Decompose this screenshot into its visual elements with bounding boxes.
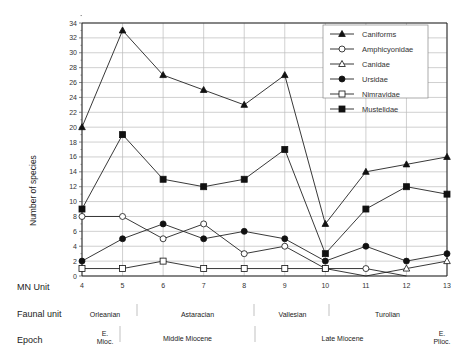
y-tick-label: 10 (69, 198, 77, 205)
x-tick-label: 7 (202, 282, 206, 289)
x-tick-label: 4 (80, 282, 84, 289)
legend-entry: Canidae (362, 60, 390, 69)
epoch-late-miocene: Late Miocene (255, 335, 430, 342)
y-tick-label: 20 (69, 124, 77, 131)
y-tick-label: 0 (73, 273, 77, 280)
x-tick-label: 11 (362, 282, 369, 289)
series-mustelidae (79, 132, 450, 257)
x-tick-label: 6 (161, 282, 165, 289)
legend-entry: Amphicyonidae (362, 45, 413, 54)
y-tick-label: 30 (69, 49, 77, 56)
mn-unit-label: MN Unit (17, 282, 50, 292)
faunal-orleanian: Orleanian (70, 311, 140, 318)
y-tick-label: 22 (69, 109, 77, 116)
x-tick-label: 12 (403, 282, 411, 289)
x-tick-label: 9 (283, 282, 287, 289)
epoch-early-miocene: E.Mioc. (95, 330, 115, 346)
legend-entry: Nimravidae (362, 90, 400, 99)
faunal-unit-label: Faunal unit (17, 309, 62, 319)
y-tick-label: 12 (69, 183, 77, 190)
y-tick-label: 26 (69, 79, 77, 86)
epoch-early-pliocene: E.Plioc. (433, 330, 451, 346)
legend-entry: Mustelidae (362, 105, 398, 114)
epoch-label: Epoch (17, 335, 43, 345)
legend: CaniformsAmphicyonidaeCanidaeUrsidaeNimr… (323, 25, 428, 114)
y-tick-label: 24 (69, 94, 77, 101)
faunal-vallesian: Vallesian (255, 311, 330, 318)
y-tick-label: 16 (69, 153, 77, 160)
y-tick-label: 32 (69, 34, 77, 41)
y-tick-label: 2 (73, 258, 77, 265)
faunal-turolian: Turolian (330, 311, 445, 318)
y-tick-label: 14 (69, 168, 77, 175)
series-ursidae (79, 221, 450, 264)
y-tick-label: 34 (69, 20, 77, 27)
legend-entry: Caniforms (362, 30, 396, 39)
line-chart: 0246810121416182022242628303234456789101… (0, 0, 451, 358)
faunal-astaracian: Astaracian (140, 311, 255, 318)
y-axis-label: Number of species (28, 155, 38, 226)
y-tick-label: 6 (73, 228, 77, 235)
y-tick-label: 18 (69, 139, 77, 146)
epoch-middle-miocene: Middle Miocene (120, 335, 255, 342)
x-tick-label: 8 (242, 282, 246, 289)
x-tick-label: 10 (321, 282, 329, 289)
series-canidae (322, 258, 450, 276)
x-tick-label: 13 (443, 282, 451, 289)
y-tick-label: 28 (69, 64, 77, 71)
x-tick-label: 5 (121, 282, 125, 289)
y-tick-label: 8 (73, 213, 77, 220)
y-tick-label: 4 (73, 243, 77, 250)
legend-entry: Ursidae (362, 75, 388, 84)
